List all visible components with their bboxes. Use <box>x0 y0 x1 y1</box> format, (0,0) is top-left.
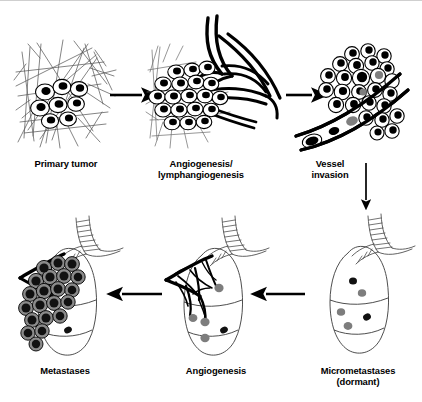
top-divider-rule <box>0 0 422 1</box>
tumor-cell-cluster-primary <box>31 79 88 128</box>
label-angiogenesis-lung: Angiogenesis <box>156 365 276 376</box>
panel-metastases <box>19 216 123 355</box>
label-metastases: Metastases <box>10 365 120 376</box>
panel-vessel-invasion <box>296 44 408 150</box>
panel-angiogenesis-lymphangiogenesis <box>146 16 280 148</box>
metastatic-cascade-figure: Primary tumor Angiogenesis/ lymphangioge… <box>0 0 422 402</box>
label-vessel-invasion: Vessel invasion <box>288 158 372 180</box>
bronchus-tube-angiogenesis-lung <box>206 216 269 266</box>
label-micrometastases: Micrometastases (dormant) <box>298 365 418 387</box>
panel-micrometastases <box>330 214 415 353</box>
panel-primary-tumor <box>14 40 116 148</box>
panel-angiogenesis-lung <box>166 216 269 355</box>
label-angiogenesis-lymphangiogenesis: Angiogenesis/ lymphangiogenesis <box>136 158 266 180</box>
label-primary-tumor: Primary tumor <box>8 158 124 169</box>
figure-canvas <box>0 0 422 402</box>
bronchus-tube-micrometastases <box>352 214 415 264</box>
lung-outline-micrometastases <box>330 246 389 353</box>
metastatic-nodules <box>19 256 86 351</box>
